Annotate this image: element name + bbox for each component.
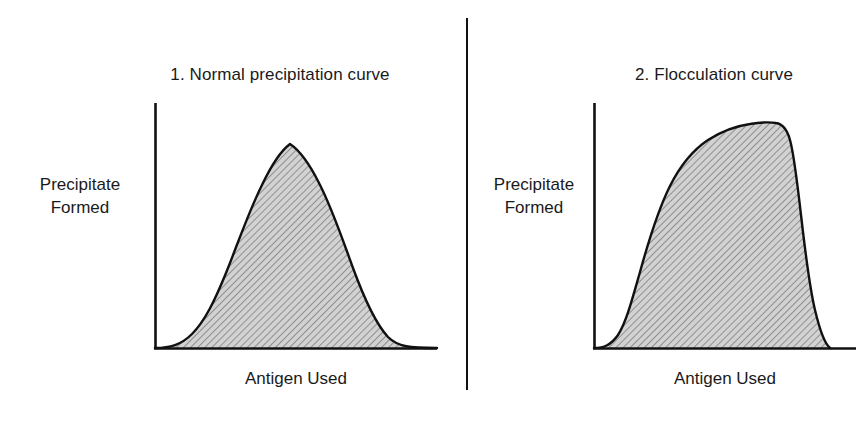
curve-area-normal-precipitation — [155, 144, 437, 348]
x-axis-label-left: Antigen Used — [155, 368, 437, 390]
curve-area-flocculation — [594, 122, 830, 348]
figure-precipitation-curves: 1. Normal precipitation curve Precipitat… — [0, 0, 868, 423]
panel-flocculation: 2. Flocculation curve Precipitate Formed… — [468, 0, 868, 423]
x-axis-label-right: Antigen Used — [594, 368, 856, 390]
plot-area-normal-precipitation — [0, 0, 460, 423]
panel-normal-precipitation: 1. Normal precipitation curve Precipitat… — [0, 0, 460, 423]
plot-area-flocculation — [468, 0, 868, 423]
